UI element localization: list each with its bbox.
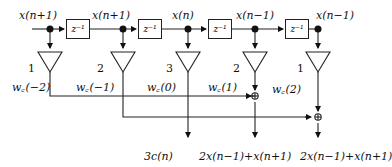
weight-label-2: w꜀(−1) — [76, 82, 114, 93]
signal-label-3: x(n) — [172, 10, 194, 21]
gain-3: 3 — [166, 63, 173, 74]
signal-label-5: x(n−1) — [316, 10, 354, 21]
delay-block-1: z⁻¹ — [66, 19, 90, 39]
signal-label-2: x(n+1) — [92, 10, 130, 21]
weight-label-3: w꜀(0) — [147, 82, 176, 93]
gain-1: 1 — [28, 63, 35, 74]
output-label-2: 2x(n−1)+x(n+1) — [199, 151, 291, 162]
output-label-1: 3c(n) — [144, 151, 173, 162]
weight-label-1: w꜀(−2) — [12, 82, 50, 93]
signal-label-1: x(n+1) — [19, 10, 57, 21]
gain-2: 2 — [97, 63, 104, 74]
weight-label-4: w꜀(1) — [208, 82, 237, 93]
delay-block-4: z⁻¹ — [285, 19, 309, 39]
delay-block-3: z⁻¹ — [208, 19, 232, 39]
output-label-3: 2x(n−1)+x(n+1) — [300, 151, 392, 162]
delay-block-2: z⁻¹ — [138, 19, 162, 39]
gain-4: 2 — [233, 63, 240, 74]
signal-label-4: x(n−1) — [236, 10, 274, 21]
gain-5: 1 — [297, 63, 304, 74]
weight-label-5: w꜀(2) — [272, 84, 301, 95]
